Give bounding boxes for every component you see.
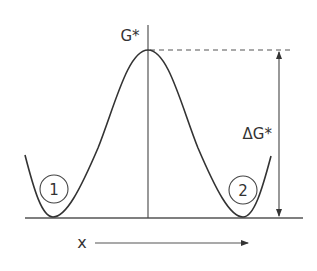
energy-diagram: 1 2 G* ΔG* x (0, 0, 317, 271)
state-1-label: 1 (49, 181, 59, 199)
axis-label: x (77, 233, 86, 252)
barrier-label: ΔG* (243, 125, 273, 143)
peak-label: G* (120, 27, 140, 45)
state-2-label: 2 (238, 182, 248, 200)
